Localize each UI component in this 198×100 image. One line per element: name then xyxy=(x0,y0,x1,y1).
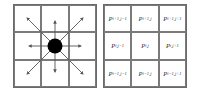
grid-cell-label: Pi,j+1 xyxy=(159,32,186,59)
grid-cell-label: Pi,j−1 xyxy=(104,32,131,59)
center-point-icon xyxy=(48,39,63,54)
grid-cell-label: Pi−1,j xyxy=(131,60,158,87)
grid-cell-label: Pi−1,j+1 xyxy=(159,60,186,87)
pixel-index-grid: Pi+1,j−1 Pi+1,j Pi+1,j+1 Pi,j−1 Pi,j Pi,… xyxy=(103,4,187,88)
grid-cell-label: Pi−1,j−1 xyxy=(104,60,131,87)
grid-cell-label: Pi+1,j xyxy=(131,5,158,32)
grid-cell-label: Pi+1,j+1 xyxy=(159,5,186,32)
arrows-overlay xyxy=(13,4,97,88)
grid-cell-label: Pi,j xyxy=(131,32,158,59)
grid-cell-label: Pi+1,j−1 xyxy=(104,5,131,32)
